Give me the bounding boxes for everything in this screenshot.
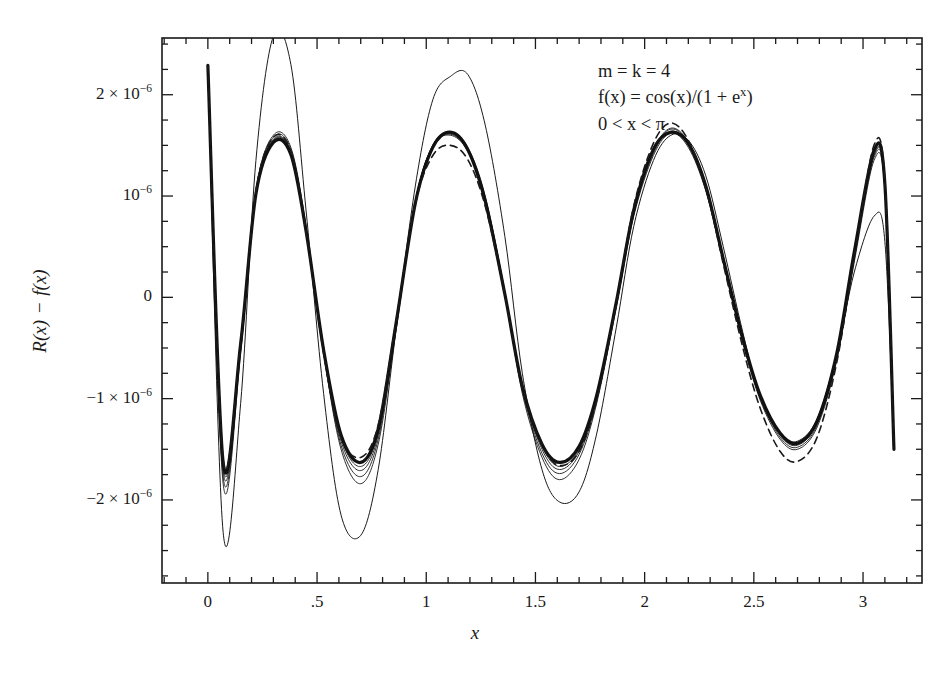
annotation-block: m = k = 4 f(x) = cos(x)/(1 + ex) 0 < x <… [598,58,753,137]
annotation-line-1: m = k = 4 [598,58,753,84]
x-tick-label: 2 [615,592,675,612]
y-tick-label: 0 [4,286,152,306]
x-tick-label: 0 [178,592,238,612]
x-tick-label: 1.5 [505,592,565,612]
axis-ticks [162,38,922,583]
curve-iterate-3 [208,65,894,487]
annotation-line-2: f(x) = cos(x)/(1 + ex) [598,84,753,110]
y-tick-label: −2 × 10−6 [4,489,152,509]
plot-frame [162,38,922,583]
annotation-line-3: 0 < x < π [598,111,753,137]
y-tick-label: −1 × 10−6 [4,388,152,408]
error-curve-figure: x R(x) − f(x) 0.511.522.532 × 10−610−60−… [0,0,950,673]
curve-reference-dashed [208,65,894,469]
curve-iterate-2 [208,65,894,494]
x-tick-label: 3 [833,592,893,612]
y-axis-title-part1: R(x) [29,320,50,353]
x-axis-title: x [0,622,950,644]
data-curves [208,29,894,546]
x-tick-label: .5 [287,592,347,612]
curve-iterate-outer [208,29,894,546]
x-tick-label: 2.5 [724,592,784,612]
annotation-line-2-text: f(x) = cos(x)/(1 + e [598,87,740,107]
x-tick-label: 1 [396,592,456,612]
y-tick-label: 10−6 [4,185,152,205]
annotation-line-2-suffix: ) [746,87,752,107]
y-tick-label: 2 × 10−6 [4,84,152,104]
